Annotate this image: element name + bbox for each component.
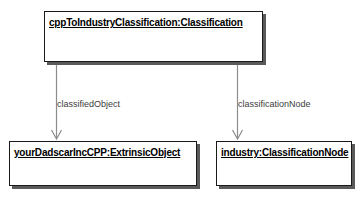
edge-classification-node-arrowhead — [233, 130, 243, 139]
uml-object-extrinsic-object[interactable]: yourDadscarIncCPP:ExtrinsicObject — [9, 141, 197, 186]
edge-label-classification-node: classificationNode — [238, 99, 311, 110]
uml-object-classification-node[interactable]: industry:ClassificationNode — [216, 141, 352, 186]
uml-object-diagram-canvas: cppToIndustryClassification:Classificati… — [0, 0, 363, 210]
uml-object-classification[interactable]: cppToIndustryClassification:Classificati… — [44, 11, 263, 62]
uml-object-title-row: industry:ClassificationNode — [217, 142, 351, 160]
uml-object-classification-title: cppToIndustryClassification:Classificati… — [49, 17, 243, 28]
uml-object-title-row: yourDadscarIncCPP:ExtrinsicObject — [10, 142, 196, 160]
edge-classified-object-arrowhead — [52, 130, 62, 139]
uml-object-extrinsic-object-title: yourDadscarIncCPP:ExtrinsicObject — [14, 147, 180, 158]
edge-label-classified-object: classifiedObject — [57, 99, 120, 110]
uml-object-classification-node-title: industry:ClassificationNode — [221, 147, 348, 158]
uml-object-title-row: cppToIndustryClassification:Classificati… — [45, 12, 262, 30]
